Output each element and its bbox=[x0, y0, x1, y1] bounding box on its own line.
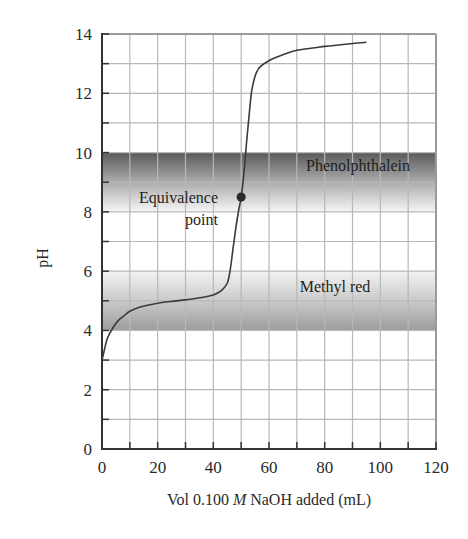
y-tick-label: 14 bbox=[75, 25, 93, 44]
x-tick-label: 100 bbox=[368, 458, 394, 477]
y-tick-label: 10 bbox=[75, 144, 92, 163]
x-title-post: NaOH added (mL) bbox=[246, 491, 371, 509]
y-tick-label: 4 bbox=[84, 321, 93, 340]
x-tick-label: 20 bbox=[149, 458, 166, 477]
y-tick-label: 8 bbox=[84, 203, 93, 222]
x-tick-label: 60 bbox=[261, 458, 278, 477]
x-tick-label: 0 bbox=[98, 458, 107, 477]
x-axis-title: Vol 0.100 M NaOH added (mL) bbox=[167, 491, 371, 509]
x-tick-label: 80 bbox=[316, 458, 333, 477]
y-tick-label: 12 bbox=[75, 84, 92, 103]
equivalence-label-line2: point bbox=[185, 211, 218, 229]
grid-lines bbox=[102, 34, 436, 449]
y-tick-label: 6 bbox=[84, 262, 93, 281]
band-label-methyl-red: Methyl red bbox=[300, 278, 371, 296]
x-tick-label: 40 bbox=[205, 458, 222, 477]
y-tick-label: 2 bbox=[84, 381, 93, 400]
y-tick-label: 0 bbox=[84, 440, 93, 459]
titration-chart: 02040608010012002468101214 Phenolphthale… bbox=[0, 0, 468, 539]
equivalence-label-line1: Equivalence bbox=[139, 189, 218, 207]
band-label-phenolphthalein: Phenolphthalein bbox=[306, 157, 410, 175]
equivalence-point-marker bbox=[237, 192, 246, 201]
x-tick-label: 120 bbox=[423, 458, 449, 477]
y-axis-title: pH bbox=[34, 248, 52, 268]
x-title-pre: Vol 0.100 bbox=[167, 491, 233, 508]
